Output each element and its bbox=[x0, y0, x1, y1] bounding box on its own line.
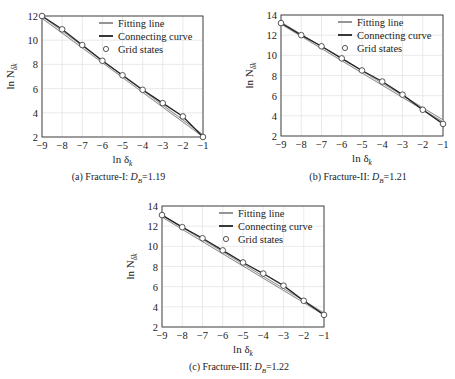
x-tick-labels: −9−8−7−6−5−4−3−2−1 bbox=[36, 140, 208, 151]
svg-text:Connecting curve: Connecting curve bbox=[238, 221, 313, 232]
y-axis-label: ln Nδk bbox=[243, 62, 258, 89]
svg-text:−8: −8 bbox=[177, 330, 188, 341]
chart-c: −9−8−7−6−5−4−3−2−12468101214ln δkln NδkF… bbox=[124, 201, 330, 375]
svg-text:−7: −7 bbox=[316, 139, 327, 150]
svg-text:6: 6 bbox=[153, 282, 158, 293]
svg-text:−2: −2 bbox=[298, 330, 309, 341]
svg-text:8: 8 bbox=[33, 59, 38, 70]
svg-text:−2: −2 bbox=[177, 140, 188, 151]
x-axis-label: ln δk bbox=[233, 343, 254, 358]
svg-text:Fitting line: Fitting line bbox=[118, 18, 165, 29]
svg-text:14: 14 bbox=[267, 10, 278, 21]
svg-text:Connecting curve: Connecting curve bbox=[118, 31, 193, 42]
chart-a: −9−8−7−6−5−4−3−2−124681012ln δkln NδkFit… bbox=[4, 11, 209, 185]
svg-text:10: 10 bbox=[267, 50, 278, 61]
svg-text:Grid states: Grid states bbox=[238, 234, 283, 245]
svg-text:8: 8 bbox=[153, 262, 158, 273]
svg-text:Grid states: Grid states bbox=[357, 43, 402, 54]
svg-text:6: 6 bbox=[33, 84, 38, 95]
svg-text:12: 12 bbox=[267, 30, 278, 41]
svg-text:−4: −4 bbox=[258, 330, 270, 341]
svg-text:4: 4 bbox=[153, 302, 159, 313]
svg-text:8: 8 bbox=[272, 71, 277, 82]
svg-text:−8: −8 bbox=[57, 140, 68, 151]
caption: (b) Fracture-II: DB=1.21 bbox=[309, 171, 406, 185]
svg-text:−1: −1 bbox=[318, 330, 329, 341]
svg-text:−5: −5 bbox=[356, 139, 367, 150]
figure: −9−8−7−6−5−4−3−2−124681012ln δkln NδkFit… bbox=[0, 0, 455, 379]
svg-text:−8: −8 bbox=[296, 139, 307, 150]
svg-text:−6: −6 bbox=[217, 330, 228, 341]
svg-text:6: 6 bbox=[272, 91, 277, 102]
svg-text:Fitting line: Fitting line bbox=[238, 208, 285, 219]
svg-text:−4: −4 bbox=[137, 140, 149, 151]
svg-text:12: 12 bbox=[148, 221, 159, 232]
x-axis-label: ln δk bbox=[113, 153, 134, 168]
svg-text:10: 10 bbox=[28, 35, 39, 46]
y-tick-labels: 24681012 bbox=[28, 11, 39, 143]
svg-text:2: 2 bbox=[153, 322, 158, 333]
svg-text:12: 12 bbox=[28, 11, 39, 22]
svg-text:−6: −6 bbox=[97, 140, 108, 151]
y-tick-labels: 2468101214 bbox=[148, 201, 159, 333]
svg-text:Connecting curve: Connecting curve bbox=[357, 30, 432, 41]
svg-text:2: 2 bbox=[33, 132, 38, 143]
x-tick-labels: −9−8−7−6−5−4−3−2−1 bbox=[275, 139, 448, 150]
svg-text:−9: −9 bbox=[275, 139, 286, 150]
svg-text:−6: −6 bbox=[336, 139, 347, 150]
svg-text:−1: −1 bbox=[197, 140, 208, 151]
chart-b: −9−8−7−6−5−4−3−2−12468101214ln δkln NδkF… bbox=[243, 10, 449, 185]
svg-text:−3: −3 bbox=[157, 140, 168, 151]
legend: Fitting lineConnecting curveGrid states bbox=[99, 18, 193, 55]
svg-text:−7: −7 bbox=[77, 140, 88, 151]
caption: (c) Fracture-III: DB=1.22 bbox=[189, 361, 289, 375]
y-axis-label: ln Nδk bbox=[124, 253, 139, 280]
svg-text:−2: −2 bbox=[417, 139, 428, 150]
svg-text:−4: −4 bbox=[377, 139, 389, 150]
y-axis-label: ln Nδk bbox=[4, 63, 19, 90]
svg-text:−9: −9 bbox=[36, 140, 47, 151]
svg-text:−7: −7 bbox=[197, 330, 208, 341]
x-axis-label: ln δk bbox=[352, 152, 373, 167]
svg-text:−3: −3 bbox=[397, 139, 408, 150]
svg-text:14: 14 bbox=[148, 201, 159, 212]
y-tick-labels: 2468101214 bbox=[267, 10, 278, 142]
x-tick-labels: −9−8−7−6−5−4−3−2−1 bbox=[156, 330, 329, 341]
svg-text:−3: −3 bbox=[278, 330, 289, 341]
svg-text:Grid states: Grid states bbox=[118, 44, 163, 55]
svg-text:10: 10 bbox=[148, 241, 159, 252]
svg-text:4: 4 bbox=[272, 111, 278, 122]
caption: (a) Fracture-I: DB=1.19 bbox=[72, 171, 166, 185]
svg-text:−1: −1 bbox=[437, 139, 448, 150]
svg-text:Fitting line: Fitting line bbox=[357, 17, 404, 28]
svg-text:−5: −5 bbox=[117, 140, 128, 151]
svg-text:4: 4 bbox=[33, 108, 39, 119]
svg-text:−9: −9 bbox=[156, 330, 167, 341]
svg-text:2: 2 bbox=[272, 131, 277, 142]
svg-text:−5: −5 bbox=[237, 330, 248, 341]
